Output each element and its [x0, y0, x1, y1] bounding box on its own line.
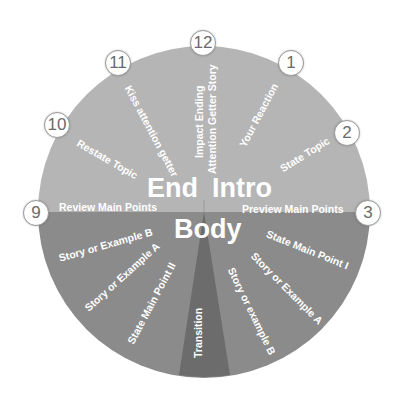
- label-impact-ending: Impact Ending: [193, 86, 205, 158]
- label-preview-main-points: Preview Main Points: [242, 203, 344, 215]
- label-transition: Transition: [192, 308, 204, 358]
- badge-1: 1: [278, 50, 304, 76]
- badge-9: 9: [23, 200, 49, 226]
- section-body-label: Body: [174, 215, 242, 243]
- label-attention-getter-story: Attention Getter Story: [206, 64, 218, 174]
- badge-10: 10: [44, 112, 70, 138]
- badge-2: 2: [334, 120, 360, 146]
- section-intro-label: Intro: [212, 174, 272, 202]
- badge-12: 12: [190, 30, 216, 56]
- badge-11: 11: [105, 50, 131, 76]
- section-end-label: End: [147, 174, 198, 202]
- label-review-main-points: Review Main Points: [59, 201, 157, 213]
- badge-3: 3: [355, 200, 381, 226]
